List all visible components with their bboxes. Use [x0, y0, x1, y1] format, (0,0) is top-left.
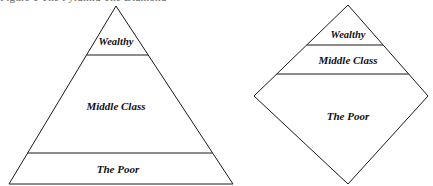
- pyramid-band-label-the-poor: The Poor: [97, 163, 140, 175]
- clipped-figure-caption: Figure 1 The Pyramid The Diamond: [0, 0, 433, 3]
- diamond-band-label-wealthy: Wealthy: [331, 29, 366, 40]
- pyramid-shape-group: Wealthy Middle Class The Poor: [9, 6, 233, 184]
- stratification-diagram: Wealthy Middle Class The Poor Wealthy Mi…: [0, 0, 433, 186]
- diamond-band-label-middle-class: Middle Class: [318, 54, 378, 66]
- pyramid-band-label-wealthy: Wealthy: [99, 36, 134, 47]
- pyramid-band-label-middle-class: Middle Class: [86, 100, 146, 112]
- pyramid-outline: [9, 6, 233, 184]
- figure-canvas: Figure 1 The Pyramid The Diamond Wealthy…: [0, 0, 433, 186]
- diamond-shape-group: Wealthy Middle Class The Poor: [254, 5, 428, 184]
- diamond-band-label-the-poor: The Poor: [327, 110, 370, 122]
